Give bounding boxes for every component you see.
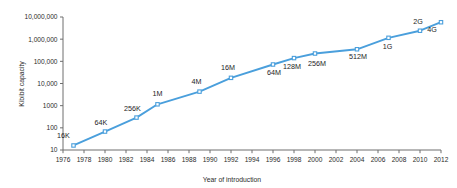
- y-axis-tick-label: 1000: [43, 102, 58, 109]
- data-point-marker: [135, 116, 138, 119]
- x-axis-tick-label: 1996: [266, 156, 281, 163]
- x-axis-tick-label: 2010: [413, 156, 428, 163]
- data-point-marker: [229, 76, 232, 79]
- data-point-label: 4M: [192, 77, 202, 86]
- x-axis-tick-label: 1992: [224, 156, 239, 163]
- data-point-marker: [418, 29, 421, 32]
- data-point-marker: [156, 103, 159, 106]
- data-point-label: 64M: [267, 68, 281, 77]
- x-axis-tick-label: 1998: [287, 156, 302, 163]
- data-point-label: 128M: [283, 62, 301, 71]
- x-axis-tick-label: 2004: [350, 156, 365, 163]
- x-axis-tick-label: 1976: [56, 156, 71, 163]
- chart-container: 10100100010,000100,0001,000,00010,000,00…: [0, 0, 457, 188]
- data-point-label: 1M: [153, 89, 163, 98]
- data-point-label: 4G: [427, 25, 437, 34]
- data-point-label: 16M: [221, 63, 235, 72]
- x-axis-tick-label: 1980: [98, 156, 113, 163]
- y-axis-tick-label: 100,000: [34, 58, 58, 65]
- data-point-label: 256K: [124, 104, 141, 113]
- data-point-marker: [313, 52, 316, 55]
- data-point-marker: [292, 56, 295, 59]
- y-axis-tick-label: 1,000,000: [28, 36, 58, 43]
- data-point-label: 16K: [57, 131, 70, 140]
- data-point-label: 512M: [349, 52, 367, 61]
- data-point-label: 64K: [95, 118, 108, 127]
- x-axis-tick-label: 2008: [392, 156, 407, 163]
- data-point-label: 2G: [413, 17, 423, 26]
- data-point-label: 1G: [383, 42, 393, 51]
- data-point-marker: [198, 90, 201, 93]
- x-axis-tick-label: 1978: [77, 156, 92, 163]
- x-axis-tick-label: 2012: [434, 156, 449, 163]
- x-axis-tick-label: 1994: [245, 156, 260, 163]
- data-point-marker: [355, 48, 358, 51]
- x-axis-tick-label: 1982: [119, 156, 134, 163]
- y-axis-title: Kibibit capacity: [18, 61, 26, 107]
- x-axis-tick-label: 1990: [203, 156, 218, 163]
- x-axis-tick-label: 2006: [371, 156, 386, 163]
- data-point-label: 256M: [308, 59, 326, 68]
- y-axis-tick-label: 10,000: [37, 80, 58, 87]
- data-point-marker: [103, 130, 106, 133]
- x-axis-tick-label: 2000: [308, 156, 323, 163]
- data-point-marker: [439, 21, 442, 24]
- data-point-marker: [72, 144, 75, 147]
- y-axis-tick-label: 10: [50, 146, 58, 153]
- x-axis-tick-label: 1988: [182, 156, 197, 163]
- data-point-marker: [271, 63, 274, 66]
- dram-capacity-line-chart: 10100100010,000100,0001,000,00010,000,00…: [0, 0, 457, 188]
- x-axis-tick-label: 2002: [329, 156, 344, 163]
- data-point-marker: [387, 36, 390, 39]
- y-axis-tick-label: 10,000,000: [24, 13, 57, 20]
- x-axis-title: Year of introduction: [203, 176, 262, 183]
- x-axis-tick-label: 1986: [161, 156, 176, 163]
- y-axis-tick-label: 100: [46, 124, 57, 131]
- x-axis-tick-label: 1984: [140, 156, 155, 163]
